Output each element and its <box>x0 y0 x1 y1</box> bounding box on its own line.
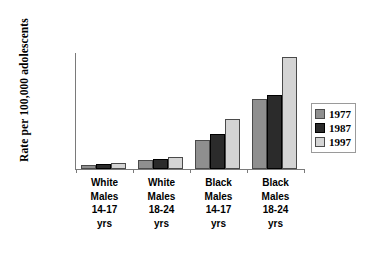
x-tick-mark <box>190 169 191 173</box>
x-category-label: BlackMales18-24yrs <box>241 176 311 230</box>
bar-1977-3 <box>252 99 267 169</box>
x-category-line: Males <box>241 190 311 204</box>
bar-1987-2 <box>210 134 225 169</box>
bar-1987-1 <box>153 159 168 169</box>
legend-swatch-1997 <box>315 137 325 147</box>
bar-group <box>195 54 240 169</box>
legend-item-1997: 1997 <box>315 135 351 149</box>
x-tick-mark <box>247 169 248 173</box>
legend-swatch-1977 <box>315 109 325 119</box>
plot-area <box>75 54 303 169</box>
x-category-line: Black <box>241 176 311 190</box>
x-category-line: 18-24 <box>241 203 311 217</box>
bar-1997-3 <box>282 57 297 169</box>
x-category-line: yrs <box>241 217 311 231</box>
x-tick-mark <box>76 169 77 173</box>
legend-label-1997: 1997 <box>329 136 351 148</box>
bar-1977-1 <box>138 160 153 169</box>
x-tick-mark <box>304 169 305 173</box>
bar-1997-2 <box>225 119 240 169</box>
legend: 197719871997 <box>311 103 356 153</box>
bar-1977-2 <box>195 140 210 169</box>
bar-1997-0 <box>111 163 126 169</box>
bar-group <box>81 54 126 169</box>
legend-item-1987: 1987 <box>315 121 351 135</box>
bar-1997-1 <box>168 157 183 169</box>
bar-group <box>138 54 183 169</box>
bar-group <box>252 54 297 169</box>
legend-label-1987: 1987 <box>329 122 351 134</box>
y-axis-title: Rate per 100,000 adolescents <box>18 0 30 180</box>
legend-label-1977: 1977 <box>329 108 351 120</box>
x-tick-mark <box>133 169 134 173</box>
bar-chart: Rate per 100,000 adolescents 05010015020… <box>0 0 381 268</box>
legend-item-1977: 1977 <box>315 107 351 121</box>
bar-1977-0 <box>81 165 96 169</box>
legend-swatch-1987 <box>315 123 325 133</box>
bar-1987-0 <box>96 164 111 169</box>
bar-1987-3 <box>267 95 282 169</box>
